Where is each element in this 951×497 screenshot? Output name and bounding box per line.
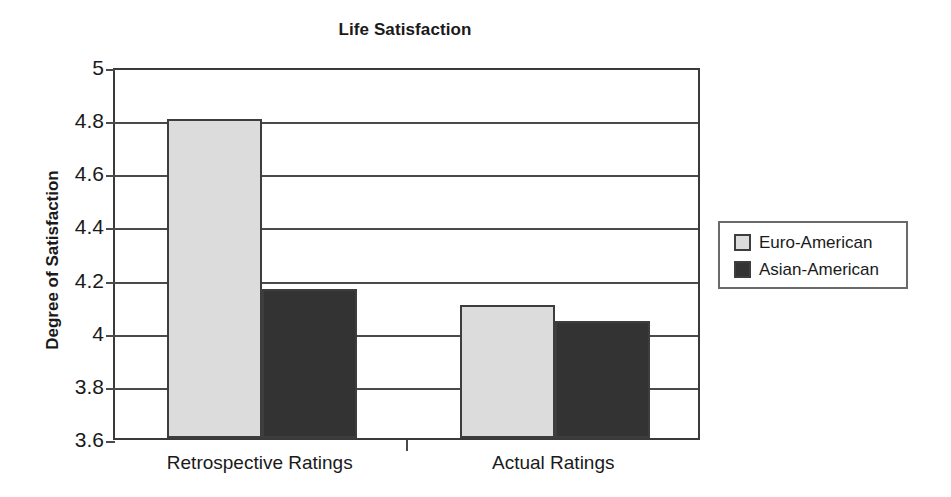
y-axis-tick: [106, 388, 115, 390]
y-tick-label: 4.8: [75, 110, 104, 131]
legend-swatch-euro-american-icon: [734, 234, 751, 251]
legend-item: Asian-American: [734, 256, 906, 283]
chart-title: Life Satisfaction: [225, 20, 585, 40]
y-tick-label: 4: [92, 323, 104, 344]
y-axis-tick: [106, 335, 115, 337]
legend-swatch-asian-american-icon: [734, 261, 751, 278]
y-tick-label: 3.6: [75, 429, 104, 450]
x-axis-tick-labels: Retrospective Ratings Actual Ratings: [113, 452, 700, 486]
bar: [460, 305, 555, 438]
legend-item-label: Euro-American: [759, 234, 872, 251]
x-axis-ticks: [113, 440, 700, 452]
y-tick-label: 3.8: [75, 376, 104, 397]
plot-area: [113, 68, 700, 440]
y-axis-tick: [106, 282, 115, 284]
y-axis-tick: [106, 228, 115, 230]
y-tick-label: 5: [92, 57, 104, 78]
x-axis-tick: [406, 440, 408, 451]
bar: [167, 119, 262, 438]
y-axis-tick: [106, 122, 115, 124]
chart-figure: Life Satisfaction Degree of Satisfaction…: [0, 0, 951, 497]
legend-item-label: Asian-American: [759, 261, 879, 278]
legend-item: Euro-American: [734, 229, 906, 256]
x-tick-label: Actual Ratings: [407, 452, 701, 474]
chart-legend: Euro-American Asian-American: [718, 221, 908, 289]
y-axis-tick: [106, 69, 115, 71]
y-tick-label: 4.6: [75, 163, 104, 184]
y-axis-tick-labels: 5 4.8 4.6 4.4 4.2 4 3.8 3.6: [48, 68, 104, 440]
bar: [555, 321, 650, 438]
y-tick-label: 4.2: [75, 270, 104, 291]
x-tick-label: Retrospective Ratings: [113, 452, 407, 474]
y-axis-tick: [106, 175, 115, 177]
y-tick-label: 4.4: [75, 216, 104, 237]
bar: [262, 289, 357, 438]
